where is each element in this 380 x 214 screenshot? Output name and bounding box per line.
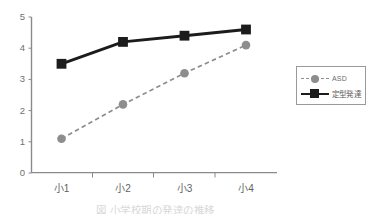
legend-label-asd: ASD: [332, 75, 347, 82]
legend-item-asd: ASD: [301, 71, 361, 86]
x-tick-label-3: 小4: [226, 180, 266, 195]
y-tick-label-2: 2: [11, 105, 25, 116]
y-tick-label-3: 3: [11, 73, 25, 84]
data-point-typical-1: [118, 37, 128, 47]
legend-swatch-asd: [301, 73, 329, 85]
y-tick-label-4: 4: [11, 42, 25, 53]
figure-caption: 図 小学校期の発達の推移: [0, 203, 380, 214]
y-tick-label-0: 0: [11, 167, 25, 178]
x-tick-label-2: 小3: [165, 180, 205, 195]
chart-legend: ASD 定型発達: [296, 66, 366, 105]
legend-circle-marker-icon: [311, 75, 319, 83]
data-point-asd-3: [242, 41, 251, 50]
legend-swatch-typical: [301, 88, 329, 100]
data-point-asd-0: [57, 134, 66, 143]
data-point-typical-0: [57, 59, 67, 69]
chart-figure: 5 4 3 2 1 0 小1 小2 小3 小4 ASD 定型発達 図 小学校期の…: [0, 0, 380, 214]
series-line-asd: [62, 45, 247, 139]
data-point-asd-2: [180, 69, 189, 78]
legend-item-typical: 定型発達: [301, 86, 361, 101]
data-point-typical-2: [180, 31, 190, 41]
y-tick-label-1: 1: [11, 136, 25, 147]
series-line-typical: [62, 30, 247, 64]
data-point-typical-3: [241, 25, 251, 35]
data-point-asd-1: [119, 100, 128, 109]
y-tick-label-5: 5: [11, 11, 25, 22]
x-tick-label-0: 小1: [42, 180, 82, 195]
figure-caption-text: 図 小学校期の発達の推移: [96, 203, 215, 214]
x-tick-marks: [93, 173, 216, 178]
legend-square-marker-icon: [310, 89, 319, 98]
x-tick-label-1: 小2: [103, 180, 143, 195]
legend-label-typical: 定型発達: [332, 88, 361, 99]
